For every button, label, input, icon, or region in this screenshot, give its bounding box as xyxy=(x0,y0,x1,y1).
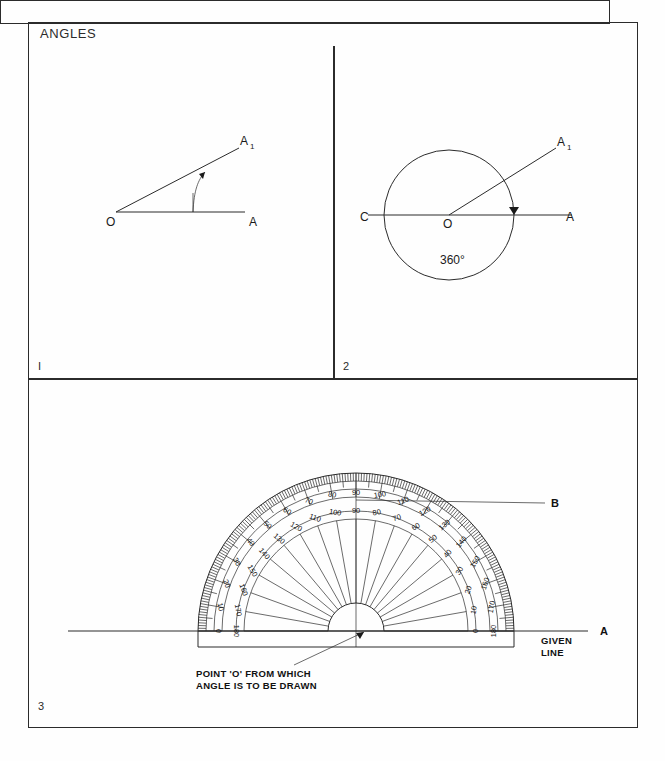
panel-number-2: 2 xyxy=(343,360,349,372)
panel-number-1: I xyxy=(38,360,41,372)
panel-vertical-divider xyxy=(333,46,335,378)
page-title: ANGLES xyxy=(40,26,96,41)
panel-number-3: 3 xyxy=(38,700,44,712)
drawing-sheet: ANGLES I 2 3 O A A 1 C O A A 1 3 xyxy=(0,0,665,761)
panel-horizontal-divider xyxy=(28,378,638,380)
title-bar xyxy=(0,0,610,24)
